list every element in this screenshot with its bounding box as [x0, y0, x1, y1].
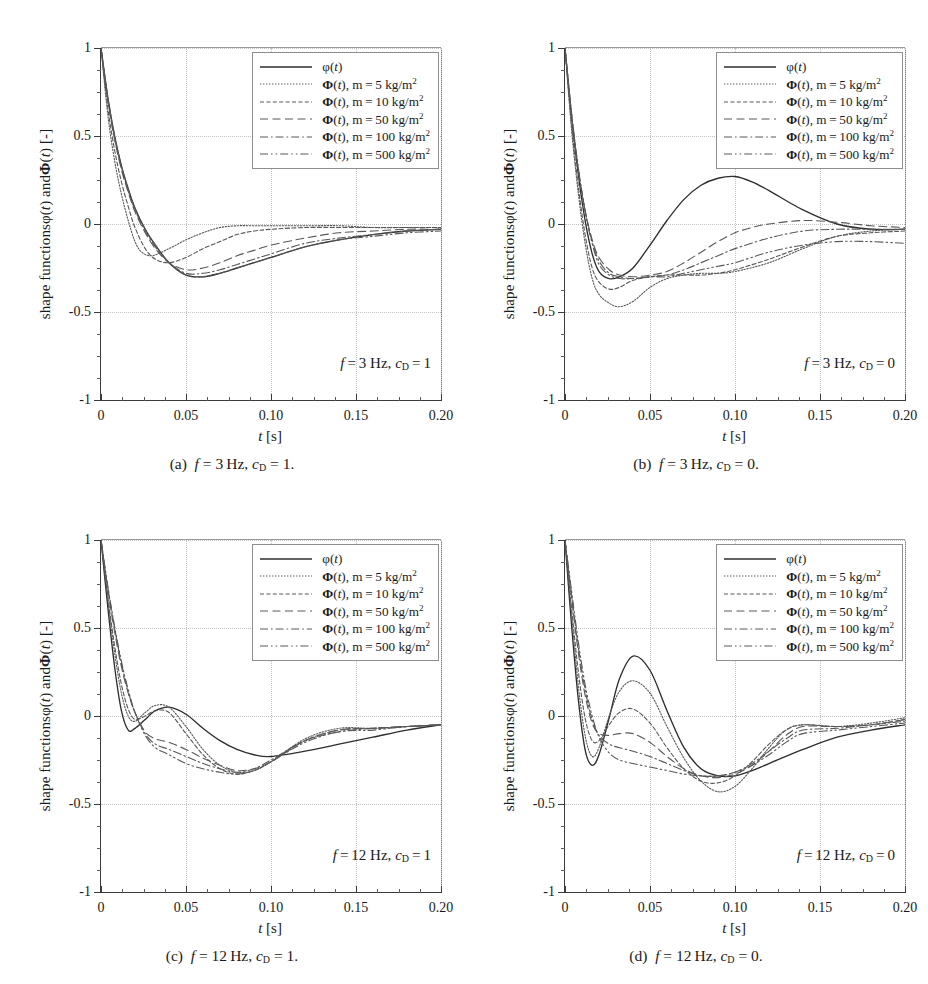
y-tick-label: -0.5	[69, 304, 91, 320]
legend-label: φ(t)	[322, 552, 342, 565]
legend: φ(t)Φ(t), m = 5 kg/m2Φ(t), m = 10 kg/m2Φ…	[252, 544, 439, 661]
x-tick-label: 0.10	[723, 408, 748, 424]
y-major-tick	[94, 804, 101, 805]
legend-label: Φ(t), m = 10 kg/m2	[322, 94, 423, 109]
x-tick-label: 0.10	[723, 900, 748, 916]
y-major-tick	[558, 48, 565, 49]
y-major-tick	[94, 48, 101, 49]
legend-line-sample	[259, 132, 313, 142]
legend-line-sample	[259, 589, 313, 599]
x-tick-label: 0.05	[174, 900, 199, 916]
legend-line-sample	[259, 62, 313, 72]
panel-d: shape functions φ(t) and Φ(t) [-]00.050.…	[464, 492, 928, 984]
y-major-tick	[94, 716, 101, 717]
legend-entry: Φ(t), m = 500 kg/m2	[723, 638, 894, 656]
x-tick-label: 0	[98, 900, 105, 916]
panel-annotation: f = 3 Hz, cD = 1	[340, 355, 431, 372]
panel-annotation: f = 3 Hz, cD = 0	[804, 355, 895, 372]
y-major-tick	[94, 312, 101, 313]
legend-entry: Φ(t), m = 50 kg/m2	[723, 111, 894, 129]
legend-entry: Φ(t), m = 50 kg/m2	[259, 111, 430, 129]
y-major-tick	[94, 892, 101, 893]
y-tick-label: 1	[84, 532, 91, 548]
legend-label: φ(t)	[322, 60, 342, 73]
legend-line-sample	[723, 554, 777, 564]
legend-line-sample	[723, 641, 777, 651]
panel-subcaption: (b) f = 3 Hz, cD = 0.	[464, 455, 928, 473]
legend-entry: Φ(t), m = 10 kg/m2	[259, 585, 430, 603]
x-major-tick	[905, 394, 906, 401]
figure-four-panel-shape-functions: shape functions φ(t) and Φ(t) [-]00.050.…	[0, 0, 928, 984]
x-tick-label: 0	[98, 408, 105, 424]
legend-label: Φ(t), m = 5 kg/m2	[322, 569, 416, 584]
legend-entry: Φ(t), m = 50 kg/m2	[259, 603, 430, 621]
y-axis-label: shape functions φ(t) and Φ(t) [-]	[498, 48, 520, 400]
legend-line-sample	[723, 589, 777, 599]
panel-annotation: f = 12 Hz, cD = 1	[333, 847, 431, 864]
panel-a: shape functions φ(t) and Φ(t) [-]00.050.…	[0, 0, 464, 492]
y-major-tick	[558, 224, 565, 225]
y-major-tick	[94, 400, 101, 401]
y-major-tick	[94, 540, 101, 541]
legend: φ(t)Φ(t), m = 5 kg/m2Φ(t), m = 10 kg/m2Φ…	[716, 52, 903, 169]
x-axis-label: t [s]	[564, 428, 904, 445]
y-axis-label: shape functions φ(t) and Φ(t) [-]	[34, 540, 56, 892]
legend-label: Φ(t), m = 50 kg/m2	[786, 112, 887, 127]
y-major-tick	[558, 400, 565, 401]
legend-line-sample	[259, 149, 313, 159]
legend-label: Φ(t), m = 500 kg/m2	[322, 639, 430, 654]
legend-entry: Φ(t), m = 500 kg/m2	[259, 638, 430, 656]
legend-line-sample	[723, 149, 777, 159]
x-tick-label: 0.15	[344, 408, 369, 424]
legend-label: φ(t)	[786, 552, 806, 565]
legend-label: Φ(t), m = 500 kg/m2	[786, 639, 894, 654]
gridline-vertical	[905, 540, 906, 892]
gridline-vertical	[441, 48, 442, 400]
legend-line-sample	[259, 606, 313, 616]
legend-entry: Φ(t), m = 5 kg/m2	[723, 76, 894, 94]
legend-line-sample	[259, 554, 313, 564]
y-tick-label: 1	[84, 40, 91, 56]
legend-line-sample	[723, 606, 777, 616]
legend-label: Φ(t), m = 10 kg/m2	[322, 586, 423, 601]
panel-grid: shape functions φ(t) and Φ(t) [-]00.050.…	[0, 0, 928, 984]
legend-line-sample	[259, 641, 313, 651]
legend-label: Φ(t), m = 100 kg/m2	[786, 129, 894, 144]
x-major-tick	[441, 886, 442, 893]
y-axis-label: shape functions φ(t) and Φ(t) [-]	[34, 48, 56, 400]
plot-area: 00.050.100.150.2010.50-0.5-1φ(t)Φ(t), m …	[564, 540, 905, 893]
legend-entry: Φ(t), m = 100 kg/m2	[259, 128, 430, 146]
y-tick-label: -1	[543, 884, 555, 900]
legend-entry: Φ(t), m = 100 kg/m2	[723, 620, 894, 638]
legend-entry: Φ(t), m = 5 kg/m2	[259, 76, 430, 94]
y-tick-label: 1	[548, 532, 555, 548]
legend-entry: Φ(t), m = 500 kg/m2	[259, 146, 430, 164]
y-major-tick	[558, 312, 565, 313]
legend-line-sample	[259, 624, 313, 634]
legend-entry: Φ(t), m = 5 kg/m2	[723, 568, 894, 586]
x-axis-label: t [s]	[564, 920, 904, 937]
legend-line-sample	[723, 624, 777, 634]
x-tick-label: 0.15	[808, 408, 833, 424]
x-tick-label: 0.10	[259, 408, 284, 424]
panel-subcaption: (d) f = 12 Hz, cD = 0.	[464, 947, 928, 965]
legend-label: Φ(t), m = 5 kg/m2	[786, 77, 880, 92]
y-major-tick	[558, 716, 565, 717]
legend-label: Φ(t), m = 50 kg/m2	[322, 112, 423, 127]
legend-entry: Φ(t), m = 10 kg/m2	[259, 93, 430, 111]
y-tick-label: 0.5	[74, 620, 92, 636]
legend: φ(t)Φ(t), m = 5 kg/m2Φ(t), m = 10 kg/m2Φ…	[716, 544, 903, 661]
panel-c: shape functions φ(t) and Φ(t) [-]00.050.…	[0, 492, 464, 984]
gridline-vertical	[441, 540, 442, 892]
legend-line-sample	[723, 571, 777, 581]
legend-line-sample	[723, 132, 777, 142]
y-major-tick	[94, 628, 101, 629]
legend-label: Φ(t), m = 100 kg/m2	[786, 621, 894, 636]
panel-annotation: f = 12 Hz, cD = 0	[797, 847, 895, 864]
x-tick-label: 0.20	[893, 408, 918, 424]
y-tick-label: 0	[548, 216, 555, 232]
x-tick-label: 0.20	[429, 900, 454, 916]
plot-area: 00.050.100.150.2010.50-0.5-1φ(t)Φ(t), m …	[100, 540, 441, 893]
legend-line-sample	[259, 114, 313, 124]
legend-entry: φ(t)	[723, 58, 894, 76]
